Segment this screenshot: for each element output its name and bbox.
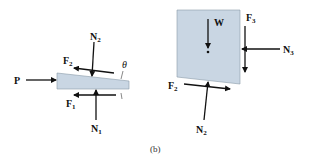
label-F3: F3	[246, 12, 256, 25]
label-W: W	[214, 17, 224, 28]
center-of-mass-dot	[207, 51, 210, 54]
free-body-diagrams: P N2 F2 θ F1 N1 W F3 N3 F2	[0, 0, 310, 160]
figure-caption: (b)	[150, 144, 161, 154]
label-N2: N2	[90, 31, 101, 44]
block-fbd: W F3 N3 F2 N2	[168, 10, 294, 137]
label-F1: F1	[66, 98, 76, 111]
wedge-body	[57, 73, 129, 89]
force-F2-arrow	[74, 68, 114, 73]
label-N2-block: N2	[196, 124, 207, 137]
angle-indicator	[121, 71, 123, 79]
label-theta: θ	[122, 59, 127, 70]
label-N1: N1	[91, 123, 102, 136]
label-P: P	[14, 75, 20, 86]
label-F2: F2	[63, 55, 73, 68]
label-N3: N3	[283, 44, 294, 57]
force-N2-block-arrow	[204, 82, 208, 120]
wedge-fbd: P N2 F2 θ F1 N1	[14, 31, 129, 136]
angle-indicator-lower	[121, 93, 122, 99]
label-F2-block: F2	[168, 80, 178, 93]
